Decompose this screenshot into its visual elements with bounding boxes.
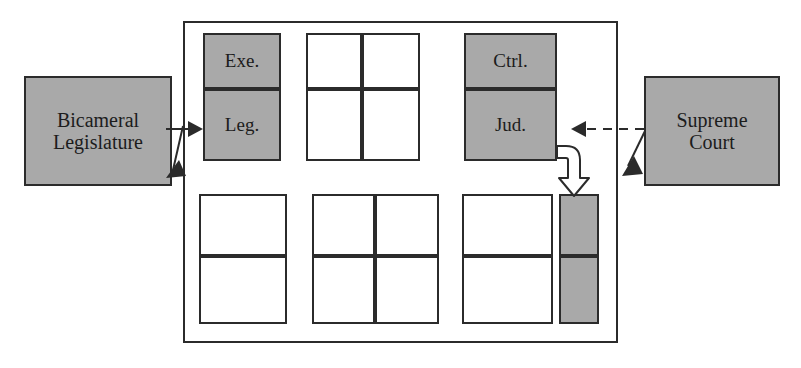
bicameral-legislature-box[interactable]: Bicameral Legislature — [24, 76, 172, 186]
cell-ctrl-label: Ctrl. — [493, 50, 527, 72]
cell-exe-label: Exe. — [225, 50, 259, 72]
cell-jud-label: Jud. — [495, 114, 526, 136]
cell-um-4[interactable] — [362, 89, 420, 161]
cell-lm-3[interactable] — [312, 256, 375, 324]
connector-frame-to-supreme-court — [622, 131, 645, 176]
cell-lr-1[interactable] — [462, 194, 553, 256]
bicameral-legislature-line1: Bicameral — [53, 109, 143, 131]
supreme-court-box[interactable]: Supreme Court — [644, 76, 780, 186]
cell-um-2[interactable] — [362, 33, 420, 89]
cell-leg-label: Leg. — [225, 114, 259, 136]
cell-um-1[interactable] — [306, 33, 362, 89]
supreme-court-line1: Supreme — [676, 109, 747, 131]
cell-exe[interactable]: Exe. — [203, 33, 281, 89]
bicameral-legislature-label: Bicameral Legislature — [53, 109, 143, 154]
supreme-court-line2: Court — [676, 131, 747, 153]
cell-gray-2[interactable] — [559, 256, 599, 324]
cell-ll-1[interactable] — [199, 194, 287, 256]
cell-ctrl[interactable]: Ctrl. — [464, 33, 557, 89]
cell-jud[interactable]: Jud. — [464, 89, 557, 161]
cell-lm-4[interactable] — [375, 256, 439, 324]
supreme-court-label: Supreme Court — [676, 109, 747, 154]
cell-um-3[interactable] — [306, 89, 362, 161]
cell-lr-2[interactable] — [462, 256, 553, 324]
cell-gray-1[interactable] — [559, 194, 599, 256]
bicameral-legislature-line2: Legislature — [53, 131, 143, 153]
cell-lm-2[interactable] — [375, 194, 439, 256]
cell-leg[interactable]: Leg. — [203, 89, 281, 161]
cell-ll-2[interactable] — [199, 256, 287, 324]
cell-lm-1[interactable] — [312, 194, 375, 256]
diagram-canvas: Exe. Leg. Ctrl. Jud. Bicameral Legislatu… — [0, 0, 801, 368]
